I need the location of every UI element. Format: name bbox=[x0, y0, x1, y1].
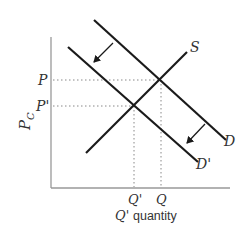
y-axis-title: P C bbox=[16, 112, 36, 131]
x-axis-title-prefix: Q' bbox=[115, 208, 129, 223]
quantity-label-q: Q bbox=[156, 192, 167, 207]
shift-arrow-upper bbox=[94, 43, 113, 62]
demand-label: D bbox=[223, 133, 235, 149]
price-label-p-prime: P' bbox=[35, 98, 49, 114]
price-label-p: P bbox=[37, 72, 48, 88]
svg-text:C: C bbox=[25, 112, 36, 120]
supply-demand-diagram: S D D' P P' Q' Q P C Q' quantity bbox=[0, 0, 250, 236]
demand-shifted-label: D' bbox=[195, 156, 211, 172]
quantity-label-q-prime: Q' bbox=[128, 192, 142, 207]
shift-arrow-lower bbox=[187, 124, 205, 143]
supply-label: S bbox=[190, 39, 200, 55]
x-axis-title: quantity bbox=[133, 209, 178, 223]
